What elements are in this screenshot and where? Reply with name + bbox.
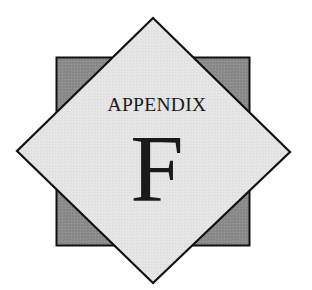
appendix-heading: APPENDIX xyxy=(1,95,312,115)
appendix-emblem: APPENDIX F xyxy=(0,0,312,290)
appendix-letter: F xyxy=(1,121,312,217)
